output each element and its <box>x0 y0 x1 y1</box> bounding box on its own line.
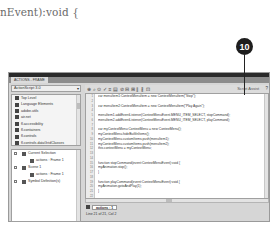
frame-icon <box>30 173 34 177</box>
script-navigator-item[interactable]: Scene 1 <box>12 164 80 171</box>
book-icon <box>15 128 19 132</box>
help-icon[interactable]: ? <box>265 86 268 91</box>
toolbar-icons[interactable]: ⊕⌕⊙✓≡▤⊘⊟⊞∥∦⊡ <box>87 86 151 93</box>
book-icon <box>15 109 19 113</box>
book-icon <box>15 103 19 107</box>
toolbox-item[interactable]: fl.controls.dataGridClasses <box>12 140 80 146</box>
script-pane: ⊕⌕⊙✓≡▤⊘⊟⊞∥∦⊡ Script Assist ? 12345678910… <box>85 85 269 221</box>
actions-panel: ACTIONS - FRAME ActionScript 3.0 ▾ Top L… <box>8 72 270 222</box>
frame-icon <box>30 159 34 163</box>
code-text[interactable]: var menuItem1:ContextMenuItem = new Cont… <box>98 94 263 199</box>
tab-actions-frame[interactable]: ACTIONS - FRAME <box>11 77 48 83</box>
toolbox-scrollbar[interactable] <box>76 95 80 145</box>
script-tab-actions[interactable]: actions : 1 <box>92 205 117 211</box>
chevron-down-icon: ▾ <box>77 86 79 91</box>
script-tab-bar: actions : 1 <box>85 204 269 211</box>
expand-toggle-icon[interactable] <box>14 152 17 155</box>
actions-toolbox-panel: ActionScript 3.0 ▾ Top LevelLanguage Ele… <box>11 85 81 221</box>
callout-leader-line <box>244 55 245 95</box>
script-navigator-item[interactable]: Symbol Definition(s) <box>12 178 80 185</box>
script-navigator-item[interactable]: actions : Frame 1 <box>12 157 80 164</box>
status-bar: Line 21 of 21, Col 2 <box>85 211 269 217</box>
script-toolbar: ⊕⌕⊙✓≡▤⊘⊟⊞∥∦⊡ Script Assist ? <box>85 85 269 93</box>
actions-toolbox: Top LevelLanguage Elementsadobe.utilsair… <box>11 94 81 146</box>
code-editor[interactable]: 12345678910111213141516171819202122 var … <box>85 93 269 199</box>
expand-toggle-icon[interactable] <box>14 180 17 183</box>
script-navigator-scrollbar[interactable] <box>76 150 80 221</box>
pin-script-icon[interactable] <box>86 205 90 209</box>
script-assist-button[interactable]: Script Assist <box>237 86 259 91</box>
script-navigator-item[interactable]: Current Selection <box>12 150 80 157</box>
book-icon <box>15 122 19 126</box>
editor-horizontal-scrollbar[interactable] <box>85 199 269 203</box>
book-icon <box>15 115 19 119</box>
folder-icon <box>22 152 26 156</box>
book-caption-code: nEvent):void { <box>0 6 79 18</box>
expand-toggle-icon[interactable] <box>14 166 17 169</box>
callout-badge: 10 <box>236 38 253 55</box>
book-icon <box>15 141 19 145</box>
line-number-gutter: 12345678910111213141516171819202122 <box>86 94 95 198</box>
line-number: 22 <box>86 194 94 199</box>
editor-vertical-scrollbar[interactable] <box>264 94 268 198</box>
scene-icon <box>22 166 26 170</box>
script-navigator-item[interactable]: actions : Frame 1 <box>12 171 80 178</box>
symbol-icon <box>22 180 26 184</box>
script-navigator: Current Selectionactions : Frame 1Scene … <box>11 149 81 222</box>
code-line <box>98 194 263 199</box>
version-select-value: ActionScript 3.0 <box>14 86 41 90</box>
book-icon <box>15 135 19 139</box>
panel-tabstrip: ACTIONS - FRAME <box>9 77 269 83</box>
actionscript-version-select[interactable]: ActionScript 3.0 ▾ <box>11 85 81 92</box>
book-icon <box>15 96 19 100</box>
